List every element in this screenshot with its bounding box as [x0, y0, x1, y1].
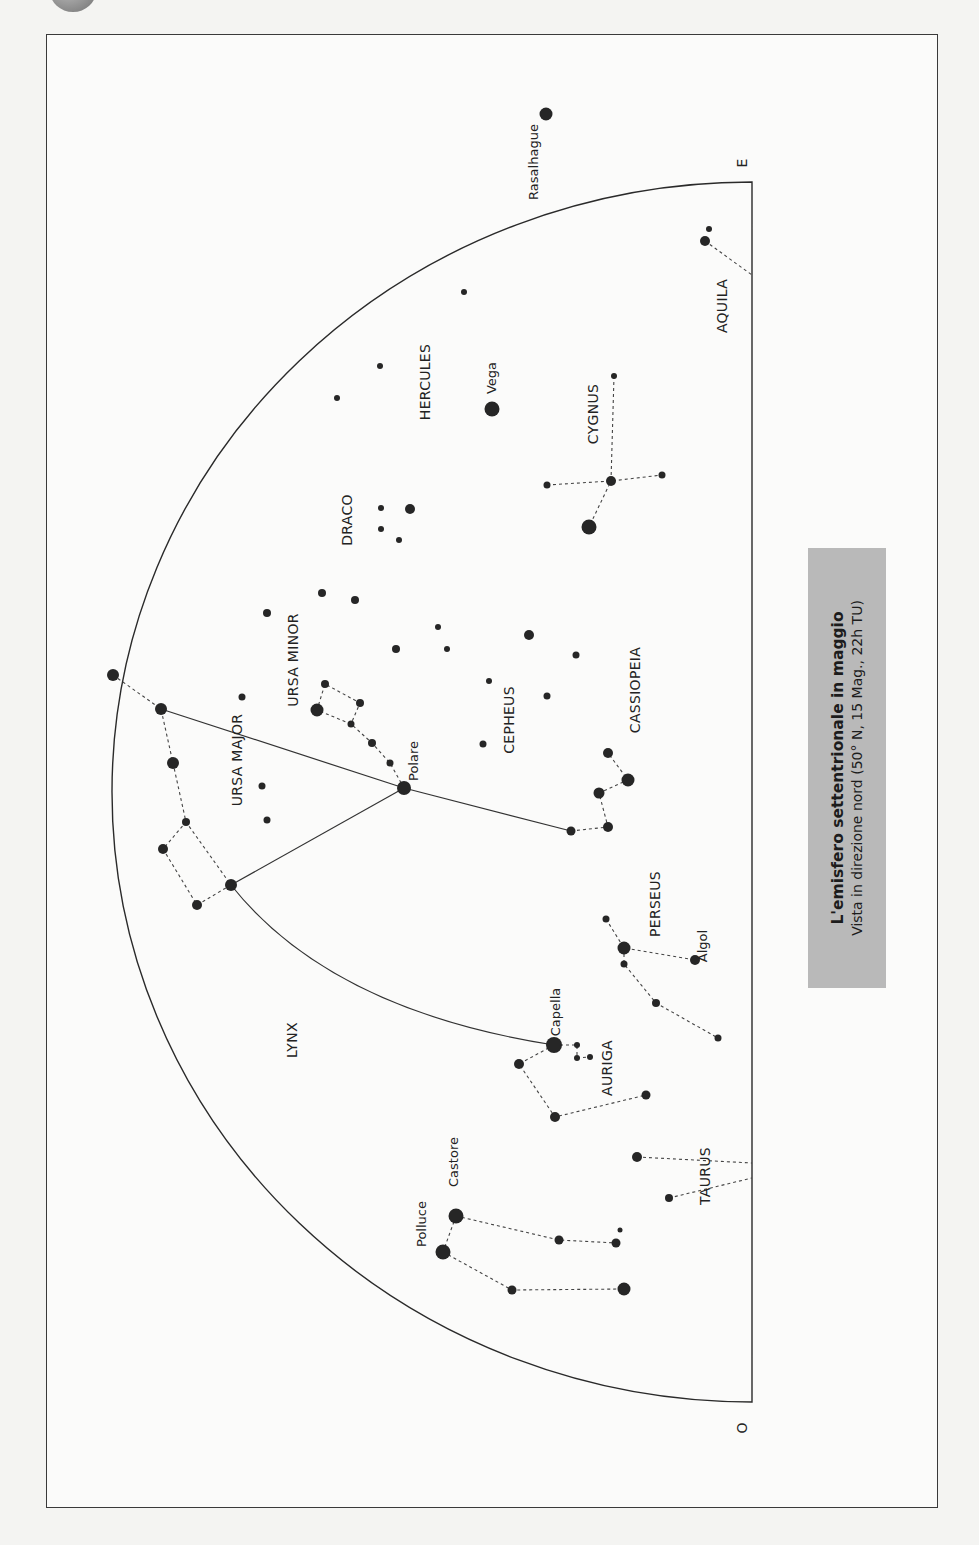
constellation-label: TAURUS [697, 1147, 713, 1206]
caption-box: L'emisfero settentrionale in maggio Vist… [808, 548, 886, 988]
star [632, 1152, 642, 1162]
constellation-line [637, 1157, 752, 1163]
star [397, 781, 411, 795]
star [642, 1091, 651, 1100]
star [659, 472, 666, 479]
star [550, 1112, 560, 1122]
constellation-label: AURIGA [599, 1040, 615, 1096]
star [621, 961, 628, 968]
star [167, 757, 179, 769]
star [405, 504, 415, 514]
star [573, 652, 580, 659]
star [311, 704, 324, 717]
star [263, 609, 271, 617]
star [396, 537, 402, 543]
star [618, 942, 631, 955]
star [582, 520, 597, 535]
star [377, 363, 383, 369]
star-labels: PolareVegaRasalhagueCapellaAlgolCastoreP… [406, 124, 710, 1247]
star-name-label: Algol [695, 930, 710, 962]
star [318, 589, 326, 597]
star [461, 289, 467, 295]
compass-west-label: O [734, 1422, 750, 1433]
star [555, 1236, 564, 1245]
star [544, 482, 551, 489]
star [574, 1042, 580, 1048]
star [387, 760, 394, 767]
star [606, 476, 616, 486]
star [356, 699, 364, 707]
star [665, 1194, 673, 1202]
star [378, 526, 384, 532]
star [612, 1239, 621, 1248]
star [107, 669, 119, 681]
constellation-line [705, 241, 752, 275]
star [436, 1245, 451, 1260]
constellation-label: URSA MAJOR [229, 714, 245, 807]
constellation-label: CYGNUS [585, 384, 601, 444]
constellation-label: URSA MINOR [285, 613, 301, 707]
star [351, 596, 359, 604]
star [259, 783, 266, 790]
constellation-line [443, 1252, 624, 1290]
star-name-label: Vega [484, 362, 499, 394]
star [587, 1054, 593, 1060]
star [378, 505, 384, 511]
star [514, 1059, 524, 1069]
star [652, 999, 660, 1007]
star [435, 624, 441, 630]
star [603, 916, 610, 923]
pointer-lines [161, 709, 571, 1045]
star [622, 774, 635, 787]
constellation-line [456, 1216, 616, 1243]
star [225, 879, 237, 891]
star [700, 236, 710, 246]
star [486, 678, 492, 684]
constellation-label: DRACO [339, 494, 355, 546]
star [603, 748, 613, 758]
star [508, 1286, 517, 1295]
star [524, 630, 534, 640]
star [334, 395, 340, 401]
star [158, 844, 168, 854]
compass-east-label: E [734, 159, 750, 168]
star [368, 739, 376, 747]
constellation-label: AQUILA [714, 279, 730, 333]
star [574, 1055, 580, 1061]
star [264, 817, 271, 824]
caption-subtitle: Vista in direzione nord (50° N, 15 Mag.,… [849, 600, 865, 936]
star [567, 827, 576, 836]
star [449, 1209, 464, 1224]
constellation-label: HERCULES [417, 344, 433, 420]
star [192, 900, 202, 910]
constellation-line [113, 675, 231, 905]
star [182, 818, 190, 826]
constellation-label: PERSEUS [647, 871, 663, 937]
star-name-label: Polare [406, 741, 421, 781]
star [594, 788, 605, 799]
star [706, 226, 712, 232]
star-name-label: Polluce [414, 1201, 429, 1247]
constellation-label: LYNX [284, 1022, 300, 1058]
star [239, 694, 246, 701]
star [546, 1037, 562, 1053]
caption-title: L'emisfero settentrionale in maggio [829, 611, 847, 924]
star [715, 1035, 722, 1042]
star-name-label: Rasalhague [526, 124, 541, 200]
star-name-label: Castore [446, 1137, 461, 1187]
star [480, 741, 487, 748]
star [321, 680, 329, 688]
star [392, 645, 400, 653]
star [618, 1283, 631, 1296]
star [485, 402, 500, 417]
star [540, 108, 553, 121]
star [611, 373, 617, 379]
star [444, 646, 450, 652]
constellation-labels: URSA MAJORURSA MINORDRACOHERCULESCYGNUSA… [229, 279, 730, 1206]
constellation-line [519, 1045, 646, 1117]
star [618, 1228, 623, 1233]
star [348, 721, 355, 728]
star [603, 822, 613, 832]
star [155, 703, 167, 715]
constellation-label: CEPHEUS [501, 686, 517, 754]
